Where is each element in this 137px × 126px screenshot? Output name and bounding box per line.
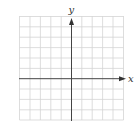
x-axis-arrow-icon xyxy=(119,76,126,81)
coordinate-plane: x y xyxy=(0,0,137,126)
y-axis-arrow-icon xyxy=(69,18,74,25)
y-axis-label: y xyxy=(68,4,75,15)
x-axis-label: x xyxy=(128,73,134,84)
